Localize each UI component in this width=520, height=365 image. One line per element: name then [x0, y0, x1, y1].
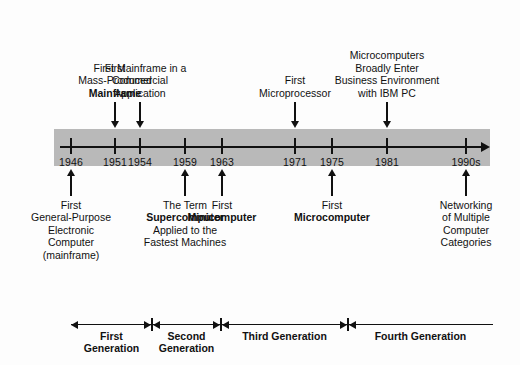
generation-axis-start-arrow	[71, 321, 78, 329]
generation-arrow-end-first-generation	[144, 321, 151, 329]
callout-connector-first-microcomputer	[331, 175, 332, 196]
callout-connector-first-microprocessor	[294, 102, 295, 121]
axis-tick-1990s	[465, 138, 467, 154]
axis-year-label-1975: 1975	[320, 156, 344, 168]
callout-first-microprocessor-line: Microprocessor	[259, 87, 331, 99]
callout-connector-first-general-purpose-computer	[70, 175, 71, 196]
generation-label-third-generation: Third Generation	[242, 330, 327, 342]
callout-microcomputers-business-line: Broadly Enter	[335, 62, 439, 74]
callout-first-minicomputer: FirstMinicomputer	[188, 199, 257, 224]
callout-networking-multiple-categories: Networkingof MultipleComputerCategories	[440, 199, 493, 249]
generation-axis-line	[71, 324, 493, 325]
generation-label-second-generation: SecondGeneration	[159, 330, 214, 355]
axis-year-label-1990s: 1990s	[451, 156, 480, 168]
callout-first-microprocessor-line: First	[259, 74, 331, 86]
generation-label-first-generation-line: Generation	[84, 342, 139, 354]
axis-tick-1951	[114, 138, 116, 154]
axis-year-label-1951: 1951	[103, 156, 127, 168]
callout-first-general-purpose-computer-line: (mainframe)	[31, 249, 111, 261]
generation-arrow-start-second-generation	[153, 321, 160, 329]
callout-microcomputers-business-line: with IBM PC	[335, 87, 439, 99]
callout-first-microprocessor: FirstMicroprocessor	[259, 74, 331, 99]
callout-connector-first-minicomputer	[221, 175, 222, 196]
axis-tick-1954	[139, 138, 141, 154]
callout-term-supercomputer-line: Applied to the	[144, 224, 226, 236]
axis-year-label-1981: 1981	[375, 156, 399, 168]
callout-connector-first-mainframe-commercial	[139, 102, 140, 121]
callout-connector-microcomputers-business	[386, 102, 387, 121]
axis-tick-1981	[386, 138, 388, 154]
callout-networking-multiple-categories-line: Networking	[440, 199, 493, 211]
axis-tick-1975	[331, 138, 333, 154]
generation-label-third-generation-line: Third Generation	[242, 330, 327, 342]
callout-first-general-purpose-computer-line: Electronic	[31, 224, 111, 236]
callout-first-microcomputer: FirstMicrocomputer	[294, 199, 370, 224]
timeline-axis-arrowhead	[481, 142, 490, 152]
axis-tick-1971	[294, 138, 296, 154]
callout-first-mainframe-commercial-line: Commercial	[94, 74, 187, 86]
callout-first-general-purpose-computer-line: General-Purpose	[31, 211, 111, 223]
axis-tick-1963	[221, 138, 223, 154]
callout-first-mainframe-commercial-line: First Mainframe in a	[94, 62, 187, 74]
generation-label-second-generation-line: Second	[159, 330, 214, 342]
axis-year-label-1971: 1971	[283, 156, 307, 168]
generation-label-first-generation: FirstGeneration	[84, 330, 139, 355]
generation-arrow-end-third-generation	[340, 321, 347, 329]
callout-first-minicomputer-line: First	[188, 199, 257, 211]
callout-connector-networking-multiple-categories	[465, 175, 466, 196]
generation-label-second-generation-line: Generation	[159, 342, 214, 354]
callout-first-microcomputer-line: First	[294, 199, 370, 211]
callout-first-microcomputer-line: Microcomputer	[294, 211, 370, 223]
axis-year-label-1963: 1963	[210, 156, 234, 168]
callout-term-supercomputer-line: Fastest Machines	[144, 236, 226, 248]
axis-year-label-1946: 1946	[59, 156, 83, 168]
generation-arrow-end-second-generation	[213, 321, 220, 329]
axis-tick-1959	[184, 138, 186, 154]
callout-microcomputers-business: MicrocomputersBroadly EnterBusiness Envi…	[335, 49, 439, 99]
callout-connector-term-supercomputer	[184, 175, 185, 196]
timeline-diagram: 194619511954195919631971197519811990sFir…	[0, 0, 520, 365]
callout-arrow-first-mass-produced-mainframe	[111, 121, 119, 128]
axis-tick-1946	[70, 138, 72, 154]
callout-first-minicomputer-line: Minicomputer	[188, 211, 257, 223]
callout-first-mainframe-commercial-line: Application	[94, 87, 187, 99]
callout-connector-first-mass-produced-mainframe	[114, 102, 115, 121]
callout-networking-multiple-categories-line: Computer	[440, 224, 493, 236]
callout-first-general-purpose-computer: FirstGeneral-PurposeElectronicComputer(m…	[31, 199, 111, 261]
callout-arrow-first-microprocessor	[291, 121, 299, 128]
callout-microcomputers-business-line: Business Environment	[335, 74, 439, 86]
callout-arrow-first-mainframe-commercial	[136, 121, 144, 128]
generation-label-first-generation-line: First	[84, 330, 139, 342]
callout-arrow-microcomputers-business	[383, 121, 391, 128]
axis-year-label-1959: 1959	[173, 156, 197, 168]
generation-arrow-start-third-generation	[222, 321, 229, 329]
callout-first-general-purpose-computer-line: First	[31, 199, 111, 211]
callout-networking-multiple-categories-line: Categories	[440, 236, 493, 248]
callout-microcomputers-business-line: Microcomputers	[335, 49, 439, 61]
timeline-axis-line	[60, 146, 482, 148]
generation-arrow-start-fourth-generation	[349, 321, 356, 329]
generation-label-fourth-generation-line: Fourth Generation	[375, 330, 467, 342]
axis-year-label-1954: 1954	[128, 156, 152, 168]
callout-first-mainframe-commercial: First Mainframe in aCommercialApplicatio…	[94, 62, 187, 99]
generation-label-fourth-generation: Fourth Generation	[375, 330, 467, 342]
callout-networking-multiple-categories-line: of Multiple	[440, 211, 493, 223]
callout-first-general-purpose-computer-line: Computer	[31, 236, 111, 248]
